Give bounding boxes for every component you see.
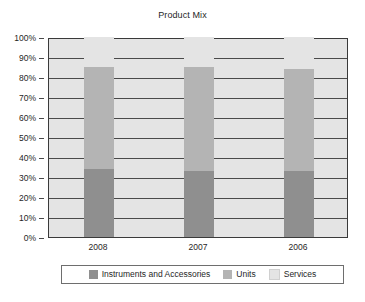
bar-group xyxy=(184,37,214,237)
y-tick-label: 20% xyxy=(19,194,36,203)
y-tick-mark xyxy=(39,158,44,159)
chart-legend: Instruments and AccessoriesUnitsServices xyxy=(61,265,344,284)
bar-segment xyxy=(184,67,214,171)
bars-layer xyxy=(49,39,347,237)
y-tick-label: 60% xyxy=(19,114,36,123)
y-tick-mark xyxy=(39,198,44,199)
bar-segment xyxy=(84,169,114,237)
y-tick-mark xyxy=(39,78,44,79)
y-tick-label: 90% xyxy=(19,54,36,63)
x-tick-label: 2007 xyxy=(189,243,208,252)
y-tick-label: 30% xyxy=(19,174,36,183)
chart-title: Product Mix xyxy=(0,10,365,20)
y-tick-label: 40% xyxy=(19,154,36,163)
bar-segment xyxy=(284,69,314,171)
bar-group xyxy=(284,37,314,237)
legend-label: Units xyxy=(236,270,255,279)
y-tick-label: 100% xyxy=(14,34,36,43)
product-mix-chart: Product Mix 0%10%20%30%40%50%60%70%80%90… xyxy=(0,0,365,302)
y-tick-mark xyxy=(39,38,44,39)
bar-segment xyxy=(184,37,214,67)
y-tick-label: 0% xyxy=(24,234,36,243)
bar-group xyxy=(84,37,114,237)
plot-area xyxy=(48,38,348,238)
legend-label: Services xyxy=(284,270,317,279)
y-tick-mark xyxy=(39,218,44,219)
y-tick-mark xyxy=(39,238,44,239)
legend-swatch-icon xyxy=(269,269,280,280)
y-tick-mark xyxy=(39,118,44,119)
y-tick-label: 50% xyxy=(19,134,36,143)
y-tick-mark xyxy=(39,98,44,99)
bar-segment xyxy=(84,67,114,169)
y-tick-label: 10% xyxy=(19,214,36,223)
y-tick-mark xyxy=(39,178,44,179)
y-axis: 0%10%20%30%40%50%60%70%80%90%100% xyxy=(0,38,44,238)
y-tick-label: 70% xyxy=(19,94,36,103)
y-tick-mark xyxy=(39,138,44,139)
x-tick-label: 2006 xyxy=(289,243,308,252)
legend-item[interactable]: Units xyxy=(223,270,255,279)
y-tick-mark xyxy=(39,58,44,59)
bar-segment xyxy=(184,171,214,237)
legend-swatch-icon xyxy=(89,270,98,279)
bar-segment xyxy=(284,171,314,237)
x-tick-label: 2008 xyxy=(89,243,108,252)
legend-swatch-icon xyxy=(223,270,232,279)
y-tick-label: 80% xyxy=(19,74,36,83)
x-axis: 200820072006 xyxy=(48,243,348,257)
bar-segment xyxy=(84,37,114,67)
bar-segment xyxy=(284,37,314,69)
legend-item[interactable]: Services xyxy=(269,269,317,280)
legend-item[interactable]: Instruments and Accessories xyxy=(89,270,211,279)
legend-label: Instruments and Accessories xyxy=(102,270,211,279)
